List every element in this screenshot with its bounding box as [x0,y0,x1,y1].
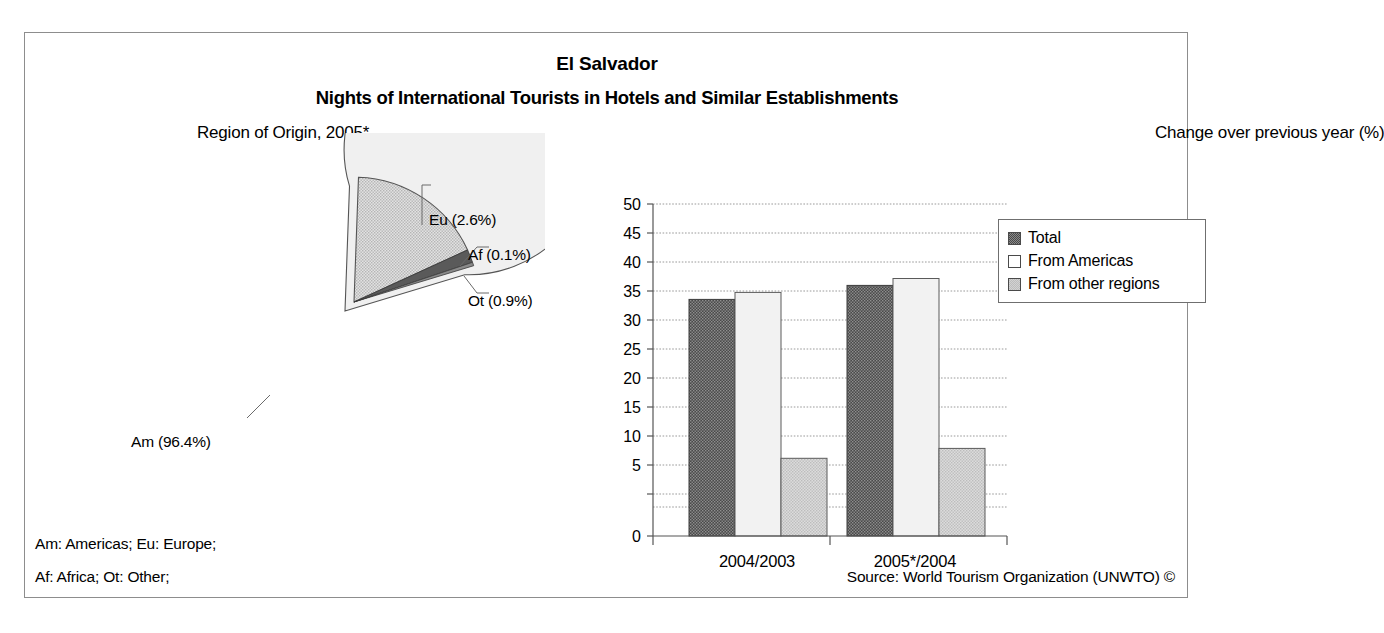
y-tick-20: 20 [623,370,641,387]
bar-from-americas-2005-2004 [893,279,939,537]
bar-from-other-regions-2005-2004 [939,448,985,536]
x-tick-2004-2003: 2004/2003 [719,552,795,570]
y-tick-25: 25 [623,341,641,358]
bar-chart-legend: Total From Americas From other regions [998,219,1206,303]
legend-label-from-americas: From Americas [1028,252,1133,270]
legend-item-from-other-regions: From other regions [1008,275,1197,293]
legend-item-total: Total [1008,229,1197,247]
bar-from-other-regions-2004-2003 [781,458,827,536]
legend-label-from-other-regions: From other regions [1028,275,1160,293]
source-attribution: Source: World Tourism Organization (UNWT… [847,568,1175,586]
y-tick-15: 15 [623,399,641,416]
callout-line-americas [247,395,270,418]
y-tick-30: 30 [623,312,641,329]
pie-label-other: Ot (0.9%) [468,292,533,310]
legend-swatch-from-other-regions [1008,278,1021,291]
y-tick-5: 5 [632,457,641,474]
y-tick-50: 50 [623,196,641,213]
bar-total-2005-2004 [847,285,893,536]
bar-chart-graphic: 50 45 40 35 30 25 20 15 10 5 0 [585,33,1189,599]
y-tick-40: 40 [623,254,641,271]
y-tick-45: 45 [623,225,641,242]
pie-label-africa: Af (0.1%) [468,246,531,264]
legend-swatch-total [1008,232,1021,245]
footnote-line-2: Af: Africa; Ot: Other; [35,568,169,586]
legend-swatch-from-americas [1008,255,1021,268]
bar-from-americas-2004-2003 [735,292,781,536]
chart-frame: El Salvador Nights of International Tour… [24,32,1188,598]
pie-chart-panel: Region of Origin, 2005* [25,33,585,599]
bar-chart-panel: Change over previous year (%) [585,33,1189,599]
bar-group-2004-2003 [689,292,827,536]
footnote-line-1: Am: Americas; Eu: Europe; [35,535,216,553]
y-axis: 50 45 40 35 30 25 20 15 10 5 0 [623,196,653,545]
pie-label-americas: Am (96.4%) [131,433,211,451]
pie-label-europe: Eu (2.6%) [429,211,496,229]
y-tick-10: 10 [623,428,641,445]
bar-total-2004-2003 [689,299,735,536]
legend-item-from-americas: From Americas [1008,252,1197,270]
x-axis: 2004/2003 2005*/2004 [653,536,1007,570]
y-tick-0: 0 [632,528,641,545]
callout-line-other [464,276,489,293]
y-tick-35: 35 [623,283,641,300]
legend-label-total: Total [1028,229,1061,247]
bar-chart-heading: Change over previous year (%) [1155,123,1384,143]
